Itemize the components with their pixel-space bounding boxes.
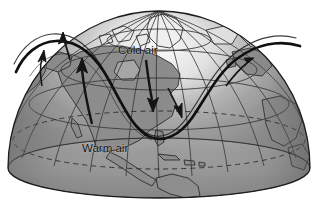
cold-air-label: Cold air xyxy=(118,44,158,56)
warm-air-label: Warm air xyxy=(82,142,128,154)
globe-shading xyxy=(8,11,310,198)
figure-canvas: Cold air Warm air xyxy=(0,0,317,211)
globe-illustration: Cold air Warm air xyxy=(0,0,317,211)
